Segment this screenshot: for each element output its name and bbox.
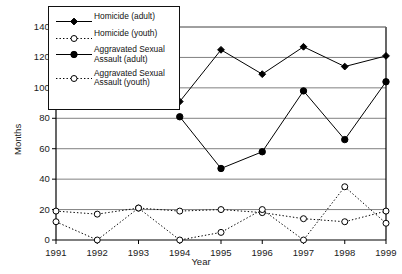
- y-tick-label: 20: [14, 204, 50, 215]
- y-tick-label: 0: [14, 234, 50, 245]
- legend-filled-diamond-icon: [54, 13, 94, 24]
- legend-filled-circle-icon: [54, 46, 94, 57]
- y-tick-label: 80: [14, 112, 50, 123]
- legend-item-label: Homicide (adult): [94, 12, 155, 22]
- legend-item: Homicide (youth): [54, 29, 175, 41]
- legend-item: Aggravated Sexual Assault (youth): [54, 69, 175, 88]
- y-tick-label: 40: [14, 173, 50, 184]
- chart-legend: Homicide (adult)Homicide (youth)Aggravat…: [48, 6, 180, 110]
- y-axis-title: Months: [12, 124, 23, 155]
- legend-item: Homicide (adult): [54, 12, 175, 24]
- series-3: [53, 184, 389, 243]
- series-2: [177, 79, 390, 172]
- series-0: [176, 43, 389, 105]
- y-tick-label: 100: [14, 82, 50, 93]
- legend-item-label: Aggravated Sexual Assault (youth): [94, 69, 165, 88]
- series-1: [53, 205, 389, 225]
- y-tick-label: 140: [14, 21, 50, 32]
- legend-item-label: Aggravated Sexual Assault (adult): [94, 45, 165, 64]
- legend-open-circle-icon: [54, 70, 94, 81]
- legend-open-circle-icon: [54, 30, 94, 41]
- y-tick-label: 120: [14, 51, 50, 62]
- legend-item: Aggravated Sexual Assault (adult): [54, 45, 175, 64]
- legend-item-label: Homicide (youth): [94, 29, 157, 39]
- x-axis-title: Year: [0, 256, 402, 267]
- line-chart: 020406080100120140 199119921993199419951…: [0, 0, 402, 274]
